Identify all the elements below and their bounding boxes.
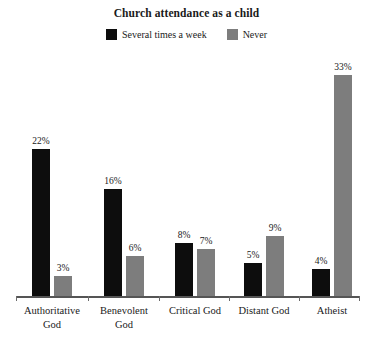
bar-group: 8%7% bbox=[175, 48, 215, 296]
x-axis-label-line: Atheist bbox=[282, 304, 373, 318]
bar-group: 5%9% bbox=[244, 48, 284, 296]
bar-rect[interactable] bbox=[126, 256, 144, 296]
x-axis-label-line: God bbox=[74, 318, 174, 332]
bar-value-label: 22% bbox=[32, 136, 49, 147]
bar-value-label: 9% bbox=[269, 223, 282, 234]
bar-rect[interactable] bbox=[32, 149, 50, 296]
bar-value-label: 8% bbox=[178, 230, 191, 241]
chart-legend: Several times a week Never bbox=[0, 29, 373, 40]
bar-item[interactable]: 6% bbox=[126, 243, 144, 296]
bar-rect[interactable] bbox=[197, 249, 215, 296]
bar-group: 16%6% bbox=[104, 48, 144, 296]
bar-rect[interactable] bbox=[312, 269, 330, 296]
legend-label-never: Never bbox=[243, 29, 267, 40]
bar-rect[interactable] bbox=[244, 263, 262, 296]
bar-group: 4%33% bbox=[312, 48, 352, 296]
legend-label-several-times-a-week: Several times a week bbox=[122, 29, 207, 40]
legend-swatch-never bbox=[227, 29, 238, 40]
x-axis-tick bbox=[159, 296, 160, 301]
x-axis-category-labels: AuthoritativeGodBenevolentGodCritical Go… bbox=[0, 304, 373, 344]
bar-rect[interactable] bbox=[266, 236, 284, 296]
bar-item[interactable]: 5% bbox=[244, 250, 262, 296]
legend-entry-several-times-a-week: Several times a week bbox=[106, 29, 207, 40]
bar-item[interactable]: 7% bbox=[197, 236, 215, 296]
bar-rect[interactable] bbox=[334, 75, 352, 296]
x-axis-baseline bbox=[16, 296, 360, 298]
legend-entry-never: Never bbox=[227, 29, 267, 40]
bar-item[interactable]: 4% bbox=[312, 256, 330, 296]
bar-item[interactable]: 16% bbox=[104, 176, 122, 296]
bar-value-label: 7% bbox=[200, 236, 213, 247]
bar-item[interactable]: 9% bbox=[266, 223, 284, 296]
x-axis-tick bbox=[229, 296, 230, 301]
bar-item[interactable]: 22% bbox=[32, 136, 50, 296]
x-axis-tick bbox=[88, 296, 89, 301]
bar-value-label: 4% bbox=[315, 256, 328, 267]
bar-group-bars: 16%6% bbox=[104, 48, 144, 296]
bar-value-label: 16% bbox=[104, 176, 121, 187]
bar-rect[interactable] bbox=[175, 243, 193, 296]
bar-value-label: 6% bbox=[129, 243, 142, 254]
bar-value-label: 33% bbox=[334, 62, 351, 73]
chart-title: Church attendance as a child bbox=[0, 6, 373, 20]
bar-value-label: 5% bbox=[247, 250, 260, 261]
x-axis-tick bbox=[16, 296, 17, 301]
x-axis-tick bbox=[299, 296, 300, 301]
bar-chart: Church attendance as a child Several tim… bbox=[0, 0, 373, 347]
bar-group-bars: 5%9% bbox=[244, 48, 284, 296]
bar-group-bars: 22%3% bbox=[32, 48, 72, 296]
plot-area: 22%3%16%6%8%7%5%9%4%33% bbox=[0, 48, 373, 296]
x-axis-tick bbox=[359, 296, 360, 301]
bar-rect[interactable] bbox=[104, 189, 122, 296]
bar-item[interactable]: 33% bbox=[334, 62, 352, 296]
legend-swatch-several-times-a-week bbox=[106, 29, 117, 40]
bar-group-bars: 4%33% bbox=[312, 48, 352, 296]
bar-value-label: 3% bbox=[57, 263, 70, 274]
x-axis-label: Atheist bbox=[282, 304, 373, 318]
bar-rect[interactable] bbox=[54, 276, 72, 296]
bar-group: 22%3% bbox=[32, 48, 72, 296]
bar-group-bars: 8%7% bbox=[175, 48, 215, 296]
bar-item[interactable]: 3% bbox=[54, 263, 72, 296]
bar-item[interactable]: 8% bbox=[175, 230, 193, 296]
